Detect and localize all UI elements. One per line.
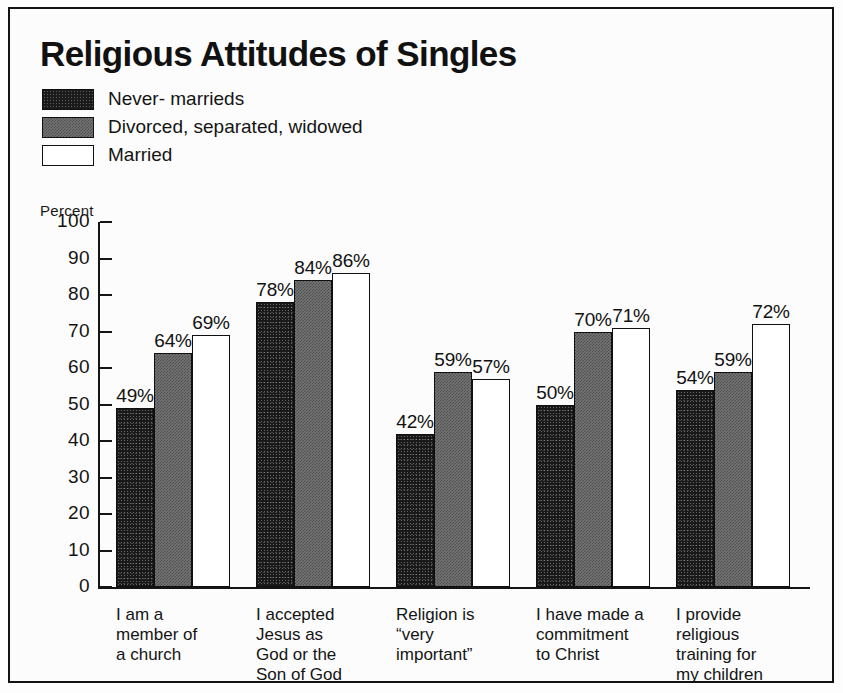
bar-value-label: 72% — [752, 301, 789, 323]
bar-never[interactable]: 50% — [536, 405, 574, 588]
x-axis-label: I have made a commitment to Christ — [536, 605, 644, 665]
x-axis-line — [98, 587, 810, 589]
y-tick-0: 0 — [100, 586, 112, 588]
bar-divorced[interactable]: 84% — [294, 280, 332, 587]
bar-never[interactable]: 42% — [396, 434, 434, 587]
legend-item-never-marrieds: Never- marrieds — [42, 85, 363, 113]
bar-value-label: 42% — [396, 411, 433, 433]
y-tick-label-60: 60 — [68, 356, 90, 378]
y-tick-60: 60 — [100, 367, 112, 369]
bar-never[interactable]: 49% — [116, 408, 154, 587]
bar-married[interactable]: 86% — [332, 273, 370, 587]
bar-divorced[interactable]: 70% — [574, 332, 612, 588]
y-tick-label-80: 80 — [68, 283, 90, 305]
x-axis-label: I provide religious training for my chil… — [676, 605, 763, 685]
bar-married[interactable]: 69% — [192, 335, 230, 587]
y-tick-80: 80 — [100, 294, 112, 296]
y-tick-40: 40 — [100, 440, 112, 442]
chart-page: Religious Attitudes of Singles Never- ma… — [0, 0, 843, 693]
bar-divorced[interactable]: 64% — [154, 353, 192, 587]
bar-set: 50%70%71% — [536, 222, 650, 587]
y-tick-20: 20 — [100, 513, 112, 515]
y-tick-label-100: 100 — [57, 210, 90, 232]
x-axis-label: I accepted Jesus as God or the Son of Go… — [256, 605, 342, 685]
y-tick-label-40: 40 — [68, 429, 90, 451]
bar-married[interactable]: 71% — [612, 328, 650, 587]
bar-never[interactable]: 78% — [256, 302, 294, 587]
y-tick-label-20: 20 — [68, 502, 90, 524]
bar-divorced[interactable]: 59% — [434, 372, 472, 587]
bar-value-label: 59% — [434, 349, 471, 371]
legend-swatch-married — [42, 145, 94, 166]
bar-value-label: 50% — [536, 382, 573, 404]
bar-value-label: 54% — [676, 367, 713, 389]
legend-item-divorced-separated-widowed: Divorced, separated, widowed — [42, 113, 363, 141]
bar-set: 42%59%57% — [396, 222, 510, 587]
bar-set: 78%84%86% — [256, 222, 370, 587]
bar-married[interactable]: 57% — [472, 379, 510, 587]
y-tick-label-70: 70 — [68, 320, 90, 342]
y-tick-label-90: 90 — [68, 247, 90, 269]
bar-married[interactable]: 72% — [752, 324, 790, 587]
chart-frame: Religious Attitudes of Singles Never- ma… — [8, 7, 834, 683]
bar-value-label: 84% — [294, 257, 331, 279]
x-axis-label: I am a member of a church — [116, 605, 197, 665]
y-tick-70: 70 — [100, 331, 112, 333]
bar-value-label: 59% — [714, 349, 751, 371]
bar-set: 54%59%72% — [676, 222, 790, 587]
chart-title: Religious Attitudes of Singles — [40, 34, 517, 74]
y-tick-90: 90 — [100, 258, 112, 260]
legend-label-married: Married — [108, 144, 172, 166]
bar-value-label: 71% — [612, 305, 649, 327]
bar-value-label: 78% — [256, 279, 293, 301]
y-tick-30: 30 — [100, 477, 112, 479]
y-tick-label-10: 10 — [68, 539, 90, 561]
legend-label-divorced-separated-widowed: Divorced, separated, widowed — [108, 116, 363, 138]
bar-divorced[interactable]: 59% — [714, 372, 752, 587]
y-tick-100: 100 — [100, 221, 112, 223]
legend-swatch-divorced-separated-widowed — [42, 117, 94, 138]
bar-value-label: 49% — [116, 385, 153, 407]
bar-value-label: 86% — [332, 250, 369, 272]
y-tick-label-0: 0 — [79, 575, 90, 597]
bar-value-label: 70% — [574, 309, 611, 331]
y-tick-label-30: 30 — [68, 466, 90, 488]
bar-never[interactable]: 54% — [676, 390, 714, 587]
plot-area: 1009080706050403020100 49%64%69%78%84%86… — [98, 222, 810, 587]
bar-set: 49%64%69% — [116, 222, 230, 587]
legend-label-never-marrieds: Never- marrieds — [108, 88, 244, 110]
bar-value-label: 64% — [154, 330, 191, 352]
y-tick-label-50: 50 — [68, 393, 90, 415]
bar-value-label: 57% — [472, 356, 509, 378]
bar-value-label: 69% — [192, 312, 229, 334]
chart-legend: Never- marrieds Divorced, separated, wid… — [42, 85, 363, 169]
legend-item-married: Married — [42, 141, 363, 169]
legend-swatch-never-marrieds — [42, 89, 94, 110]
x-axis-label: Religion is “very important” — [396, 605, 474, 665]
y-tick-10: 10 — [100, 550, 112, 552]
y-tick-50: 50 — [100, 404, 112, 406]
